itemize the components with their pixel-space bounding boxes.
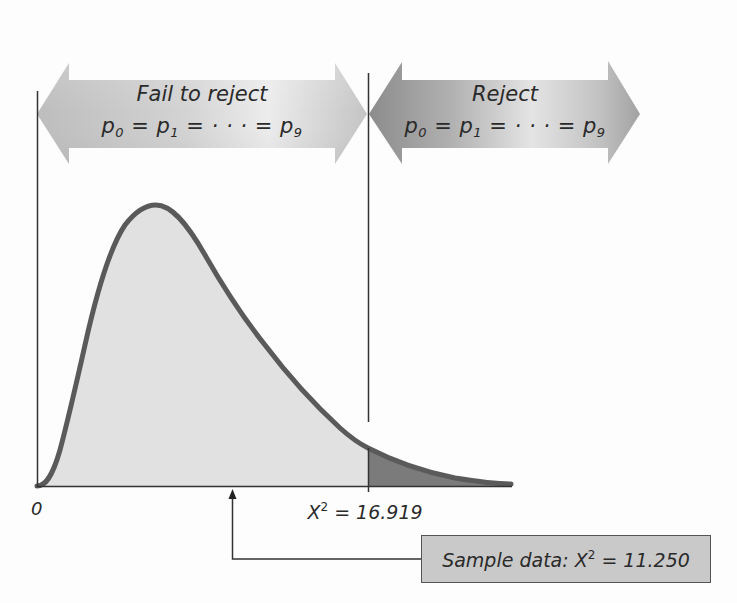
sample-pointer-arrowhead: [229, 489, 237, 499]
eq-subscript: 0: [115, 125, 124, 140]
eq-p-symbol: p: [280, 114, 294, 138]
eq-p-symbol: p: [101, 114, 115, 138]
eq-operator: = · · · =: [482, 114, 583, 138]
reject-title: Reject: [472, 84, 538, 105]
chi-exponent: 2: [320, 500, 328, 514]
sample-prefix: Sample data:: [442, 549, 575, 571]
critical-value-text: = 16.919: [328, 501, 422, 523]
eq-subscript: 0: [418, 125, 427, 140]
eq-p-symbol: p: [583, 114, 597, 138]
reject-arrow: [369, 61, 640, 164]
fail-to-reject-equation: p0 = p1 = · · · = p9: [101, 116, 302, 139]
eq-subscript: 9: [597, 125, 606, 140]
eq-p-symbol: p: [404, 114, 418, 138]
eq-p-symbol: p: [460, 114, 474, 138]
critical-value-label: X2 = 16.919: [307, 501, 422, 522]
eq-subscript: 9: [294, 125, 303, 140]
eq-operator: =: [427, 114, 459, 138]
eq-operator: = · · · =: [179, 114, 280, 138]
x-axis-origin-label: 0: [31, 500, 42, 518]
reject-equation: p0 = p1 = · · · = p9: [404, 116, 605, 139]
fail-to-reject-title: Fail to reject: [136, 84, 267, 105]
chi-square-figure: Fail to reject p0 = p1 = · · · = p9 Reje…: [0, 0, 737, 603]
eq-operator: =: [124, 114, 156, 138]
eq-subscript: 1: [473, 125, 482, 140]
eq-subscript: 1: [170, 125, 179, 140]
chi-symbol: X: [307, 501, 320, 523]
eq-p-symbol: p: [157, 114, 171, 138]
sample-data-label: Sample data: X2 = 11.250: [442, 548, 690, 571]
chi-symbol: X: [575, 549, 588, 571]
sample-data-callout: Sample data: X2 = 11.250: [421, 535, 711, 583]
sample-value-text: = 11.250: [595, 549, 689, 571]
